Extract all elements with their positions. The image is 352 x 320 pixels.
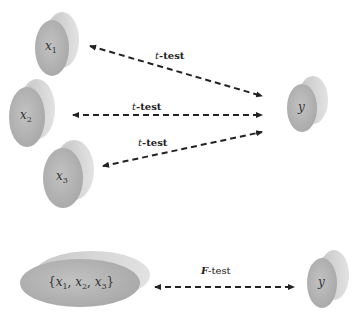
t-test-label-2: t-test bbox=[132, 101, 162, 112]
t-test-arrow-x2: t-test bbox=[73, 101, 262, 115]
label-y-bottom: y bbox=[317, 275, 325, 289]
cylinder-predictor-set: {x1, x2, x3} bbox=[20, 251, 150, 307]
label-y-top: y bbox=[297, 100, 305, 114]
cylinder-y-bottom: y bbox=[307, 250, 349, 308]
t-test-label-3: t-test bbox=[138, 137, 168, 148]
cylinder-x3: x3 bbox=[43, 140, 94, 208]
t-test-arrow-x1: t-test bbox=[90, 46, 262, 96]
f-test-arrow: F-test bbox=[155, 265, 294, 287]
cylinder-y-top: y bbox=[287, 76, 328, 132]
diagram-canvas: x1 x2 x3 y t-test t-test t-test { bbox=[0, 0, 352, 320]
cylinder-x2: x2 bbox=[9, 79, 55, 147]
t-test-label-1: t-test bbox=[155, 50, 185, 61]
f-test-label: F-test bbox=[200, 265, 231, 276]
t-test-arrow-x3: t-test bbox=[103, 132, 262, 166]
cylinder-x1: x1 bbox=[35, 12, 79, 76]
